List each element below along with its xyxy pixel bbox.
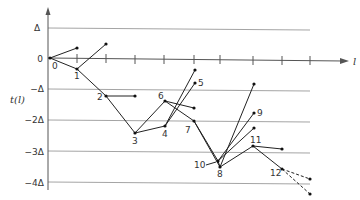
node-label-6: 6 [158,91,164,101]
node-label-0: 0 [52,61,58,71]
grid-line-minus-delta [48,89,310,91]
grid-line-minus-3delta [48,151,310,153]
node-label-10: 10 [194,160,206,170]
node-label-8: 8 [217,169,223,179]
node-label-12: 12 [270,168,281,178]
y-axis-label: t(l) [10,94,25,105]
node-label-9: 9 [257,108,263,118]
grid-line-minus-2delta [48,120,310,122]
y-tick-minus-2delta: −2Δ [25,115,45,125]
node-label-5: 5 [198,78,204,88]
x-axis-ticks [77,54,310,65]
node-label-4: 4 [162,129,168,139]
grid-line-delta [48,28,310,30]
y-axis-arrow-icon [46,7,51,15]
y-tick-zero: 0 [37,54,43,64]
node-label-11: 11 [250,135,261,145]
node-label-7: 7 [185,125,191,135]
x-axis-arrow-icon [340,58,349,64]
y-tick-minus-delta: −Δ [30,84,45,94]
random-walk-diagram: l t(l) Δ 0 −Δ −2Δ −3Δ −4Δ [0,0,360,200]
node-label-3: 3 [132,136,138,146]
y-tick-delta: Δ [34,23,41,33]
grid-line-minus-4delta [48,182,310,184]
y-tick-minus-4delta: −4Δ [25,178,45,188]
node-label-2: 2 [97,92,103,102]
x-axis [48,58,344,61]
node-label-1: 1 [74,71,80,81]
x-axis-label: l [353,56,356,67]
y-tick-minus-3delta: −3Δ [25,147,45,157]
